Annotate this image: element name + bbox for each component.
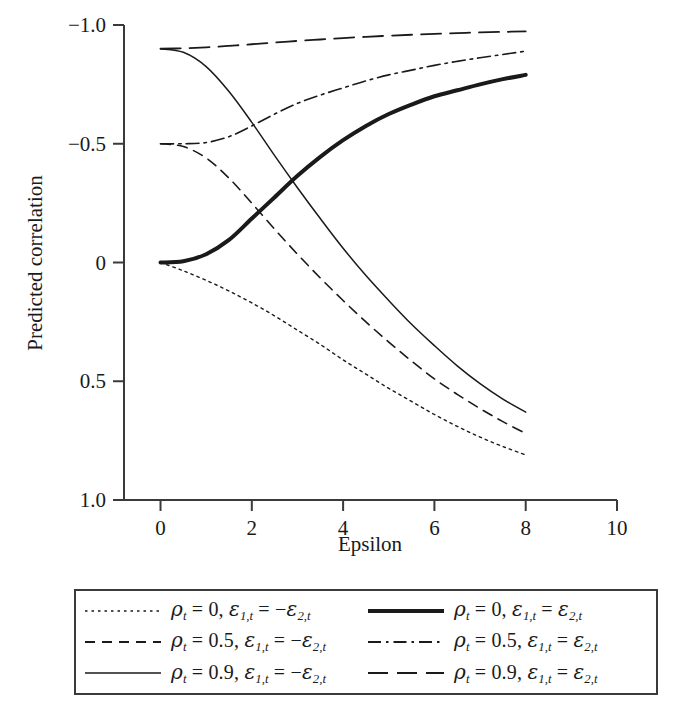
x-tick-label: 8 (520, 516, 531, 540)
x-tick-label: 6 (429, 516, 440, 540)
x-axis-title: Epsilon (338, 532, 403, 556)
legend-swatch-rho0-neg (84, 604, 162, 618)
y-tick-label: 1.0 (80, 488, 106, 512)
legend: ρt = 0, ε1,t = −ε2,tρt = 0, ε1,t = ε2,tρ… (74, 589, 658, 695)
y-tick-label: −1.0 (68, 13, 106, 37)
legend-grid: ρt = 0, ε1,t = −ε2,tρt = 0, ε1,t = ε2,tρ… (76, 591, 656, 693)
series-line (161, 75, 526, 263)
legend-entry-rho0-neg[interactable]: ρt = 0, ε1,t = −ε2,t (84, 595, 367, 626)
legend-label-rho09-pos: ρt = 0.9, ε1,t = ε2,t (454, 662, 598, 685)
series-line (161, 49, 526, 412)
legend-swatch-rho0-pos (367, 604, 445, 618)
y-axis-tick-labels: 1.00.50−0.5−1.0 (68, 13, 106, 512)
legend-swatch-rho05-pos (367, 635, 445, 649)
data-series-group (161, 31, 526, 454)
x-axis-ticks (161, 500, 617, 511)
series-line (161, 51, 526, 144)
axis-lines (124, 25, 617, 500)
legend-label-rho0-pos: ρt = 0, ε1,t = ε2,t (454, 599, 582, 622)
legend-label-rho05-pos: ρt = 0.5, ε1,t = ε2,t (454, 630, 598, 653)
y-axis-ticks (113, 25, 124, 500)
y-tick-label: 0.5 (80, 369, 106, 393)
legend-label-rho05-neg: ρt = 0.5, ε1,t = −ε2,t (171, 630, 326, 653)
y-axis-title: Predicted correlation (23, 175, 47, 351)
series-line (161, 31, 526, 48)
x-tick-label: 10 (607, 516, 628, 540)
figure-container: 0246810 1.00.50−0.5−1.0 Epsilon Predicte… (0, 0, 686, 713)
legend-entry-rho05-neg[interactable]: ρt = 0.5, ε1,t = −ε2,t (84, 626, 367, 657)
legend-entry-rho0-pos[interactable]: ρt = 0, ε1,t = ε2,t (367, 595, 650, 626)
legend-entry-rho09-pos[interactable]: ρt = 0.9, ε1,t = ε2,t (367, 658, 650, 689)
series-line (161, 144, 526, 434)
legend-swatch-rho09-neg (84, 666, 162, 680)
legend-swatch-rho05-neg (84, 635, 162, 649)
y-tick-label: −0.5 (68, 132, 106, 156)
x-tick-label: 0 (155, 516, 166, 540)
x-tick-label: 2 (247, 516, 258, 540)
legend-entry-rho09-neg[interactable]: ρt = 0.9, ε1,t = −ε2,t (84, 658, 367, 689)
legend-entry-rho05-pos[interactable]: ρt = 0.5, ε1,t = ε2,t (367, 626, 650, 657)
legend-label-rho0-neg: ρt = 0, ε1,t = −ε2,t (171, 599, 311, 622)
y-tick-label: 0 (96, 251, 107, 275)
series-line (161, 263, 526, 455)
legend-label-rho09-neg: ρt = 0.9, ε1,t = −ε2,t (171, 662, 326, 685)
legend-swatch-rho09-pos (367, 666, 445, 680)
